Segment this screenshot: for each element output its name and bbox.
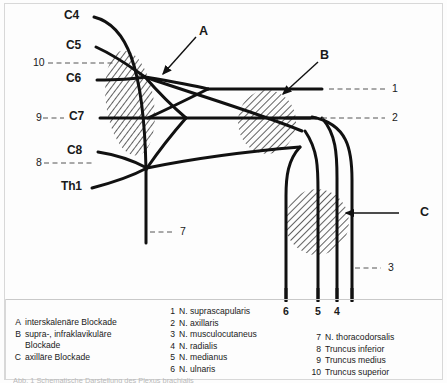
legend-key-3: 3 bbox=[168, 329, 175, 339]
block-label-C: C bbox=[420, 206, 429, 219]
trunk-label-8: 8 bbox=[36, 157, 42, 168]
blockade-zone-B bbox=[238, 90, 296, 154]
legend-key-C: C bbox=[13, 352, 21, 362]
blockade-zone-A bbox=[99, 47, 161, 159]
block-label-B: B bbox=[320, 49, 329, 62]
legend-text-7: N. thoracodorsalis bbox=[325, 332, 447, 342]
trunk-inferior bbox=[147, 147, 300, 168]
legend-column-nerves-left: 1 N. suprascapularis 2 N. axillaris 3 N.… bbox=[168, 306, 303, 375]
legend-text-B-cont: Blockade bbox=[25, 340, 163, 350]
nerve-label-7: 7 bbox=[180, 226, 186, 237]
legend-key-8: 8 bbox=[308, 344, 321, 354]
crossing-branch-up bbox=[148, 89, 208, 118]
root-label-c8: C8 bbox=[67, 144, 82, 156]
legend-key-4: 4 bbox=[168, 341, 175, 351]
legend-text-1: N. suprascapularis bbox=[179, 306, 303, 316]
legend-text-9: Truncus medius bbox=[325, 355, 447, 365]
legend-key-6: 6 bbox=[168, 364, 175, 374]
legend-item-3: 3 N. musculocutaneus bbox=[168, 329, 303, 339]
pointer-A bbox=[163, 37, 196, 74]
root-line-th1 bbox=[92, 168, 147, 188]
root-label-th1: Th1 bbox=[61, 180, 82, 192]
legend-item-C: C axilläre Blockade bbox=[13, 352, 163, 362]
legend-text-C: axilläre Blockade bbox=[25, 352, 163, 362]
figure-caption: Abb. 1 Schematische Darstellung des Plex… bbox=[13, 376, 433, 383]
legend-key-A: A bbox=[13, 317, 21, 327]
root-label-c4: C4 bbox=[64, 9, 79, 21]
legend-key-10: 10 bbox=[308, 367, 321, 377]
nerve-label-2: 2 bbox=[392, 112, 398, 123]
legend-item-7: 7 N. thoracodorsalis bbox=[308, 332, 447, 342]
legend-text-10: Truncus superior bbox=[325, 367, 447, 377]
legend-key-5: 5 bbox=[168, 352, 175, 362]
legend-column-blockades: A interskalenäre Blockade B supra-, infr… bbox=[13, 317, 163, 363]
legend-text-5: N. medianus bbox=[179, 352, 303, 362]
legend-text-A: interskalenäre Blockade bbox=[25, 317, 163, 327]
legend-item-1: 1 N. suprascapularis bbox=[168, 306, 303, 316]
legend-text-2: N. axillaris bbox=[179, 318, 303, 328]
legend-item-10: 10 Truncus superior bbox=[308, 367, 447, 377]
nerve-label-3: 3 bbox=[388, 262, 394, 273]
plexus-lines bbox=[92, 17, 352, 300]
root-label-c7: C7 bbox=[69, 110, 84, 122]
legend-item-9: 9 Truncus medius bbox=[308, 355, 447, 365]
legend-item-B-cont: Blockade bbox=[13, 340, 163, 350]
legend-text-8: Truncus inferior bbox=[325, 344, 447, 354]
trunk-label-9: 9 bbox=[36, 112, 42, 123]
legend-item-6: 6 N. ulnaris bbox=[168, 364, 303, 374]
nerve-label-1: 1 bbox=[392, 83, 398, 94]
figure-root: C4 C5 C6 C7 C8 Th1 10 9 8 A B C 1 2 3 7 … bbox=[0, 0, 447, 383]
legend-item-4: 4 N. radialis bbox=[168, 341, 303, 351]
legend-item-A: A interskalenäre Blockade bbox=[13, 317, 163, 327]
legend-text-6: N. ulnaris bbox=[179, 364, 303, 374]
legend-text-B: supra-, infraklavikuläre bbox=[25, 329, 163, 339]
legend-key-7: 7 bbox=[308, 332, 321, 342]
legend-item-8: 8 Truncus inferior bbox=[308, 344, 447, 354]
legend-text-4: N. radialis bbox=[179, 341, 303, 351]
legend-key-9: 9 bbox=[308, 355, 321, 365]
legend: A interskalenäre Blockade B supra-, infr… bbox=[0, 300, 447, 383]
root-label-c6: C6 bbox=[66, 72, 81, 84]
legend-key-B: B bbox=[13, 329, 21, 339]
legend-item-5: 5 N. medianus bbox=[168, 352, 303, 362]
legend-key-1: 1 bbox=[168, 306, 175, 316]
legend-item-2: 2 N. axillaris bbox=[168, 318, 303, 328]
root-label-c5: C5 bbox=[66, 39, 81, 51]
legend-item-B: B supra-, infraklavikuläre bbox=[13, 329, 163, 339]
legend-key-2: 2 bbox=[168, 318, 175, 328]
trunk-label-10: 10 bbox=[33, 57, 45, 68]
legend-text-3: N. musculocutaneus bbox=[179, 329, 303, 339]
block-label-A: A bbox=[199, 25, 208, 38]
legend-column-nerves-right: 7 N. thoracodorsalis 8 Truncus inferior … bbox=[308, 332, 447, 378]
